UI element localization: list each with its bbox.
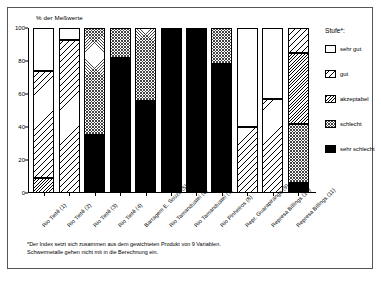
legend-swatch — [325, 45, 336, 53]
bar-segment[interactable] — [59, 40, 80, 193]
bar-segment[interactable] — [84, 28, 105, 135]
bar-column[interactable] — [84, 28, 105, 193]
y-tick-mark — [25, 28, 28, 29]
bar-segment[interactable] — [33, 28, 54, 71]
x-tick-mark — [222, 193, 223, 196]
bar-segment[interactable] — [135, 101, 156, 193]
legend-item[interactable]: schlecht — [325, 118, 362, 130]
bar-segment[interactable] — [211, 64, 232, 193]
bar-segment[interactable] — [237, 127, 258, 193]
x-tick-mark — [273, 193, 274, 196]
bar-column[interactable] — [59, 28, 80, 193]
bar-segment[interactable] — [237, 28, 258, 127]
footnote-line-1: *Der Index setzt sich zusammen aus dem g… — [27, 240, 337, 248]
x-tick-mark — [247, 193, 248, 196]
legend-item[interactable]: sehr schlecht — [325, 143, 375, 155]
x-tick-mark — [298, 193, 299, 196]
bar-segment[interactable] — [84, 135, 105, 193]
bar-segment[interactable] — [262, 99, 283, 193]
legend-swatch — [325, 145, 336, 153]
legend-swatch — [325, 70, 336, 78]
y-tick-mark — [25, 94, 28, 95]
y-tick-mark — [25, 160, 28, 161]
bar-column[interactable] — [110, 28, 131, 193]
x-tick-mark — [120, 193, 121, 196]
bar-segment[interactable] — [59, 28, 80, 40]
bar-segment[interactable] — [288, 124, 309, 183]
bar-segment[interactable] — [135, 28, 156, 101]
x-tick-mark — [69, 193, 70, 196]
bar-column[interactable] — [211, 28, 232, 193]
bar-column[interactable] — [135, 28, 156, 193]
legend-item[interactable]: akzeptabel — [325, 93, 369, 105]
legend-label: gut — [340, 71, 348, 77]
bar-column[interactable] — [161, 28, 182, 193]
bar-column[interactable] — [186, 28, 207, 193]
bar-segment[interactable] — [186, 28, 207, 193]
legend-item[interactable]: gut — [325, 68, 348, 80]
x-tick-mark — [95, 193, 96, 196]
x-tick-mark — [146, 193, 147, 196]
x-tick-mark — [196, 193, 197, 196]
bar-segment[interactable] — [262, 28, 283, 99]
y-tick-mark — [25, 61, 28, 62]
footnote-line-2: Schwermetalle gehen nicht mit in die Ber… — [27, 248, 337, 256]
legend-swatch — [325, 95, 336, 103]
y-tick-mark — [25, 193, 28, 194]
bar-column[interactable] — [237, 28, 258, 193]
legend-swatch — [325, 120, 336, 128]
bar-column[interactable] — [262, 28, 283, 193]
legend-title: Stufe*: — [325, 27, 345, 34]
bar-segment[interactable] — [33, 178, 54, 193]
bar-segment[interactable] — [161, 28, 182, 193]
legend-label: sehr gut — [340, 46, 361, 52]
legend-label: schlecht — [340, 121, 362, 127]
bar-segment[interactable] — [288, 53, 309, 124]
figure-canvas: % der Meßwerte 100806040200 Rio Tietê (1… — [0, 0, 381, 281]
x-tick-mark — [171, 193, 172, 196]
bar-segment[interactable] — [211, 28, 232, 64]
x-tick-mark — [44, 193, 45, 196]
legend-label: akzeptabel — [340, 96, 369, 102]
bar-segment[interactable] — [288, 28, 309, 53]
legend-label: sehr schlecht — [340, 146, 375, 152]
bar-column[interactable] — [288, 28, 309, 193]
bar-segment[interactable] — [33, 71, 54, 178]
y-tick-mark — [25, 127, 28, 128]
y-axis-title: % der Meßwerte — [36, 14, 83, 21]
plot-area: 100806040200 Rio Tietê (1)Rio Tietê (2)R… — [28, 28, 316, 193]
bar-column[interactable] — [33, 28, 54, 193]
bar-segment[interactable] — [110, 28, 131, 58]
legend-item[interactable]: sehr gut — [325, 43, 361, 55]
bar-segment[interactable] — [110, 58, 131, 193]
footnote: *Der Index setzt sich zusammen aus dem g… — [27, 240, 337, 256]
